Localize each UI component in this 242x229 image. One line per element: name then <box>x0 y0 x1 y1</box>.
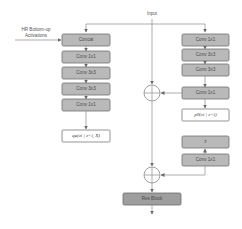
left-conv1x1-label-b: Conv 1x1 <box>76 102 96 107</box>
right-branch: Conv 1x1 Conv 3x3 Conv 3x3 Conv 1x1 pθ(z… <box>161 34 229 175</box>
arrow-to-add-2 <box>161 166 205 175</box>
left-branch: Concat Conv 1x1 Conv 3x3 Conv 3x3 Conv 1… <box>62 34 110 142</box>
prior-label: pθ(zi | z<i) <box>193 112 217 117</box>
side-input-label-line1: HR Bottom-up <box>21 27 51 32</box>
right-post-conv1x1-label: Conv 1x1 <box>196 157 216 162</box>
add-op-1 <box>144 85 160 101</box>
diagram-canvas: Input HR Bottom-up Activations Concat Co… <box>0 0 242 229</box>
right-conv3x3-label-b: Conv 3x3 <box>196 67 216 72</box>
left-conv1x1-label: Conv 1x1 <box>76 54 96 59</box>
left-conv3x3-label-a: Conv 3x3 <box>76 70 96 75</box>
add-op-2 <box>144 167 160 183</box>
right-conv1x1-label: Conv 1x1 <box>196 37 216 42</box>
right-conv1x1-label-b: Conv 1x1 <box>196 90 216 95</box>
input-label: Input <box>147 11 158 16</box>
left-conv3x3-label-b: Conv 3x3 <box>76 86 96 91</box>
side-input-label-line2: Activations <box>25 33 48 38</box>
right-conv3x3-label-a: Conv 3x3 <box>196 52 216 57</box>
res-block-label: Res Block <box>142 196 163 201</box>
concat-label: Concat <box>79 37 94 42</box>
